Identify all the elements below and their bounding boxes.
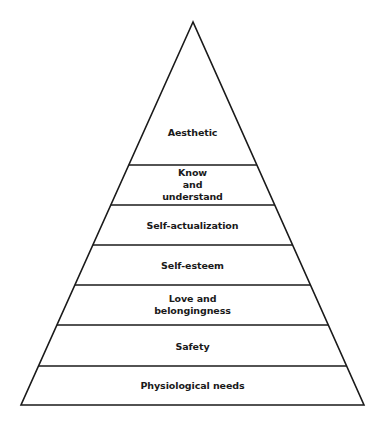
pyramid-diagram <box>0 0 385 428</box>
level-know-and-understand: Know and understand <box>0 167 385 203</box>
level-self-actualization: Self-actualization <box>0 220 385 232</box>
level-physiological-needs: Physiological needs <box>0 380 385 392</box>
level-aesthetic: Aesthetic <box>0 127 385 139</box>
level-safety: Safety <box>0 341 385 353</box>
level-love-and-belongingness: Love and belongingness <box>0 293 385 317</box>
level-self-esteem: Self-esteem <box>0 260 385 272</box>
